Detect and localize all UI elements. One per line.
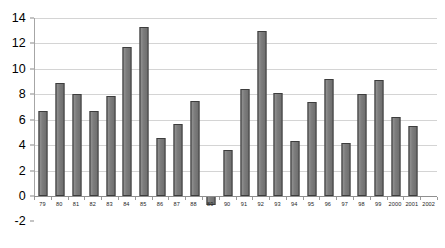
bar[interactable] xyxy=(56,83,65,196)
x-tick-mark xyxy=(370,197,371,200)
bar[interactable] xyxy=(392,117,401,196)
bar[interactable] xyxy=(140,27,149,196)
x-tick-label: 79 xyxy=(39,202,45,208)
x-tick-label: 95 xyxy=(308,202,314,208)
bar-slot xyxy=(320,18,337,196)
x-tick-label: 89 xyxy=(207,202,213,208)
y-tick-label: 2 xyxy=(19,164,26,177)
bar-slot xyxy=(253,18,270,196)
bar[interactable] xyxy=(291,141,300,196)
x-tick-mark xyxy=(101,197,102,200)
bar-slot xyxy=(287,18,304,196)
bar[interactable] xyxy=(39,111,48,196)
x-tick-label: 96 xyxy=(325,202,331,208)
bar-slot xyxy=(270,18,287,196)
x-tick-mark xyxy=(236,197,237,200)
bar-slot xyxy=(421,18,438,196)
bar-slot xyxy=(102,18,119,196)
x-tick-label: 99 xyxy=(375,202,381,208)
x-tick-label: 97 xyxy=(341,202,347,208)
x-tick-mark xyxy=(319,197,320,200)
x-tick-mark xyxy=(387,197,388,200)
x-tick-mark xyxy=(51,197,52,200)
bar[interactable] xyxy=(123,47,132,196)
bar-slot xyxy=(304,18,321,196)
y-tick-label: 14 xyxy=(12,12,26,25)
x-tick-label: 2002 xyxy=(422,202,435,208)
x-tick-mark xyxy=(34,197,35,200)
x-tick-label: 80 xyxy=(56,202,62,208)
x-tick-mark xyxy=(219,197,220,200)
x-tick-mark xyxy=(420,197,421,200)
x-tick-mark xyxy=(403,197,404,200)
bar-slot xyxy=(52,18,69,196)
bars-layer xyxy=(35,18,437,196)
x-tick-label: 81 xyxy=(73,202,79,208)
bar[interactable] xyxy=(173,124,182,196)
bar[interactable] xyxy=(89,111,98,196)
bar-slot xyxy=(69,18,86,196)
x-axis: 7980818283848586878889909192939495969798… xyxy=(34,196,437,222)
x-tick-mark xyxy=(437,197,438,200)
bar-slot xyxy=(371,18,388,196)
x-tick-mark xyxy=(269,197,270,200)
bar-slot xyxy=(388,18,405,196)
x-tick-label: 93 xyxy=(274,202,280,208)
y-axis: 14121086420-2 xyxy=(0,0,34,248)
bar[interactable] xyxy=(240,89,249,196)
bar[interactable] xyxy=(156,138,165,196)
bar-slot xyxy=(169,18,186,196)
bar-slot xyxy=(220,18,237,196)
x-tick-mark xyxy=(252,197,253,200)
bar-slot xyxy=(153,18,170,196)
bar[interactable] xyxy=(308,102,317,196)
bar[interactable] xyxy=(72,94,81,196)
x-tick-mark xyxy=(202,197,203,200)
bar-slot xyxy=(237,18,254,196)
bar-slot xyxy=(203,18,220,196)
x-tick-label: 98 xyxy=(358,202,364,208)
y-tick-label: 8 xyxy=(19,88,26,101)
bar[interactable] xyxy=(324,79,333,196)
bar[interactable] xyxy=(190,101,199,196)
bar[interactable] xyxy=(106,96,115,196)
bar-slot xyxy=(404,18,421,196)
x-tick-label: 90 xyxy=(224,202,230,208)
bar-slot xyxy=(186,18,203,196)
bar-slot xyxy=(85,18,102,196)
bar[interactable] xyxy=(274,93,283,196)
y-tick-label: 12 xyxy=(12,37,26,50)
x-tick-label: 92 xyxy=(257,202,263,208)
x-tick-label: 85 xyxy=(140,202,146,208)
x-tick-mark xyxy=(286,197,287,200)
bar[interactable] xyxy=(358,94,367,196)
x-tick-mark xyxy=(84,197,85,200)
x-tick-mark xyxy=(336,197,337,200)
bar[interactable] xyxy=(341,143,350,196)
x-tick-mark xyxy=(168,197,169,200)
y-tick-label: 4 xyxy=(19,139,26,152)
x-tick-label: 2001 xyxy=(405,202,418,208)
x-tick-label: 83 xyxy=(106,202,112,208)
bar-slot xyxy=(35,18,52,196)
x-tick-mark xyxy=(303,197,304,200)
x-tick-label: 94 xyxy=(291,202,297,208)
bar-slot xyxy=(337,18,354,196)
x-tick-mark xyxy=(185,197,186,200)
bar-slot xyxy=(354,18,371,196)
x-tick-label: 2000 xyxy=(389,202,402,208)
y-tick-label: 6 xyxy=(19,113,26,126)
bar-chart: 14121086420-2 79808182838485868788899091… xyxy=(0,0,445,248)
x-tick-label: 87 xyxy=(174,202,180,208)
bar[interactable] xyxy=(375,80,384,196)
x-tick-label: 84 xyxy=(123,202,129,208)
bar[interactable] xyxy=(224,150,233,196)
bar[interactable] xyxy=(408,126,417,196)
y-tick-label: 0 xyxy=(19,190,26,203)
x-tick-label: 86 xyxy=(157,202,163,208)
x-tick-label: 82 xyxy=(90,202,96,208)
y-tick-label: -2 xyxy=(14,215,26,228)
x-tick-label: 91 xyxy=(241,202,247,208)
bar[interactable] xyxy=(257,31,266,196)
x-tick-mark xyxy=(135,197,136,200)
